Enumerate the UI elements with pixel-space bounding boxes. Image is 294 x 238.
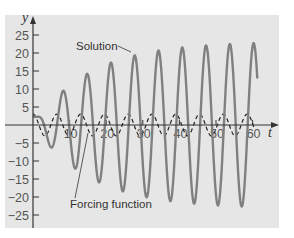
y-tick-label: 25 bbox=[15, 29, 29, 43]
y-tick-label: −15 bbox=[8, 173, 29, 187]
y-tick-label: −10 bbox=[8, 155, 29, 169]
plot-panel bbox=[5, 15, 279, 228]
y-tick-label: 5 bbox=[22, 101, 29, 115]
x-tick-label: 30 bbox=[137, 127, 151, 141]
forcing-annotation: Forcing function bbox=[70, 198, 152, 210]
y-tick-label: 20 bbox=[15, 47, 29, 61]
y-tick-label: −25 bbox=[8, 209, 29, 223]
x-tick-label: 60 bbox=[247, 127, 261, 141]
solution-annotation: Solution bbox=[76, 40, 118, 52]
y-tick-label: −5 bbox=[15, 137, 29, 151]
y-tick-label: 10 bbox=[15, 83, 29, 97]
resonance-chart: 252015105−5−10−15−20−25 102030405060 y t… bbox=[0, 0, 294, 238]
y-tick-label: −20 bbox=[8, 191, 29, 205]
y-axis-label: y bbox=[20, 10, 29, 25]
y-tick-label: 15 bbox=[15, 65, 29, 79]
